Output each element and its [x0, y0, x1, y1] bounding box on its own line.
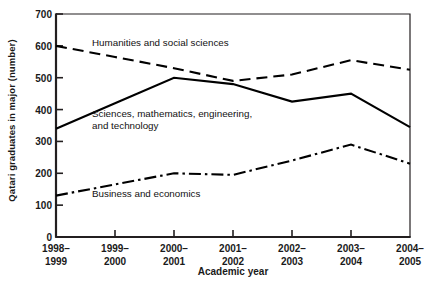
x-axis-tick-label: 1998–1999 [29, 243, 83, 268]
series-label-0: Humanities and social sciences [92, 37, 229, 49]
x-axis-tick-label: 1999–2000 [88, 243, 142, 268]
chart-figure: Qatari graduates in major (number) 01002… [0, 0, 436, 291]
x-axis-tick-label: 2000–2001 [147, 243, 201, 268]
x-axis-tick-label: 2002–2003 [265, 243, 319, 268]
x-axis-title: Academic year [56, 266, 410, 277]
series-label-2: Business and economics [92, 188, 200, 200]
x-axis-tick-label: 2003–2004 [324, 243, 378, 268]
series-line-0 [56, 46, 410, 81]
series-label-1: Sciences, mathematics, engineering, and … [92, 108, 252, 132]
x-axis-tick-label: 2001–2002 [206, 243, 260, 268]
x-axis-tick-label: 2004–2005 [383, 243, 436, 268]
